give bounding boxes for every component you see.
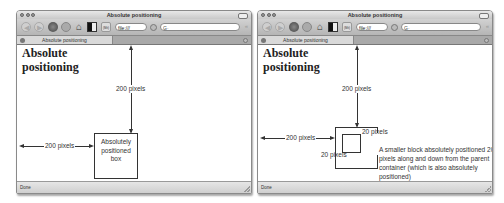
tab-bar-close-icon[interactable] xyxy=(484,38,489,43)
page-heading: Absolute positioning xyxy=(263,46,320,74)
bookmark-icon[interactable] xyxy=(328,22,338,32)
absolutely-positioned-box: Absolutely positioned box xyxy=(94,133,138,179)
overflow-chevron-icon[interactable]: « xyxy=(486,23,489,29)
browser-window-left: Absolute positioning ◀ ▶ ⌂ (Mit) file://… xyxy=(16,10,252,194)
tab-absolute-positioning[interactable]: Absolute positioning xyxy=(17,36,113,44)
status-bar: Done xyxy=(17,181,251,193)
tab-absolute-positioning[interactable]: Absolute positioning xyxy=(258,36,354,44)
tab-bar: Absolute positioning xyxy=(258,36,492,45)
box-text-line-1: Absolutely xyxy=(95,138,137,147)
history-icon[interactable]: (Mit) xyxy=(342,22,352,32)
search-field[interactable]: G· xyxy=(401,23,481,31)
box-text: Absolutely positioned box xyxy=(95,134,137,164)
stop-icon[interactable] xyxy=(302,22,312,32)
heading-line-1: Absolute xyxy=(263,46,320,60)
home-icon[interactable]: ⌂ xyxy=(315,22,325,32)
status-text: Done xyxy=(261,185,272,190)
description-text: A smaller block absolutely positioned 20… xyxy=(379,145,493,181)
tab-label: Absolute positioning xyxy=(42,37,87,43)
heading-line-2: positioning xyxy=(22,60,79,74)
resize-grip-icon[interactable] xyxy=(485,186,491,192)
window-title: Absolute positioning xyxy=(258,11,492,19)
browser-window-right: Absolute positioning ◀ ▶ ⌂ (Mit) file://… xyxy=(257,10,493,194)
inner-top-offset-label: 20 pixels xyxy=(362,128,388,136)
home-icon[interactable]: ⌂ xyxy=(74,22,84,32)
url-field[interactable]: file:/// xyxy=(356,23,388,31)
outer-box-right-edge-bottom xyxy=(377,155,378,169)
tab-label: Absolute positioning xyxy=(283,37,328,43)
go-button[interactable] xyxy=(150,24,157,31)
status-bar: Done xyxy=(258,181,492,193)
status-text: Done xyxy=(20,185,31,190)
bookmark-icon[interactable] xyxy=(87,22,97,32)
back-arrow-icon[interactable]: ◀ xyxy=(21,22,31,32)
left-offset-label: 200 pixels xyxy=(285,134,316,142)
url-field[interactable]: file:/// xyxy=(115,23,147,31)
forward-arrow-icon[interactable]: ▶ xyxy=(34,22,44,32)
overflow-chevron-icon[interactable]: « xyxy=(245,23,248,29)
title-bar[interactable]: Absolute positioning xyxy=(17,11,251,19)
search-field[interactable]: G· xyxy=(160,23,240,31)
reload-icon[interactable] xyxy=(289,22,299,32)
reload-icon[interactable] xyxy=(48,22,58,32)
history-icon[interactable]: (Mit) xyxy=(101,22,111,32)
tab-bar: Absolute positioning xyxy=(17,36,251,45)
page-heading: Absolute positioning xyxy=(22,46,79,74)
toolbar-toggle-button[interactable] xyxy=(479,13,489,19)
go-button[interactable] xyxy=(391,24,398,31)
tab-bar-close-icon[interactable] xyxy=(243,38,248,43)
tab-close-icon[interactable] xyxy=(261,38,266,43)
box-text-line-3: box xyxy=(95,155,137,164)
forward-arrow-icon[interactable]: ▶ xyxy=(275,22,285,32)
left-offset-label: 200 pixels xyxy=(44,142,75,150)
top-offset-label: 200 pixels xyxy=(116,85,145,93)
toolbar-toggle-button[interactable] xyxy=(238,13,248,19)
page-content: Absolute positioning 200 pixels 200 pixe… xyxy=(258,45,492,181)
inner-left-offset-label: 20 pixels xyxy=(321,151,347,159)
window-title: Absolute positioning xyxy=(17,11,251,19)
box-text-line-2: positioned xyxy=(95,147,137,156)
back-arrow-icon[interactable]: ◀ xyxy=(262,22,272,32)
heading-line-2: positioning xyxy=(263,60,320,74)
title-bar[interactable]: Absolute positioning xyxy=(258,11,492,19)
stop-icon[interactable] xyxy=(61,22,71,32)
toolbar: ◀ ▶ ⌂ (Mit) file:/// G· « xyxy=(258,19,492,36)
top-offset-label: 200 pixels xyxy=(342,85,371,93)
tab-close-icon[interactable] xyxy=(20,38,25,43)
page-content: Absolute positioning 200 pixels 200 pixe… xyxy=(17,45,251,181)
toolbar: ◀ ▶ ⌂ (Mit) file:/// G· « xyxy=(17,19,251,36)
resize-grip-icon[interactable] xyxy=(244,186,250,192)
heading-line-1: Absolute xyxy=(22,46,79,60)
